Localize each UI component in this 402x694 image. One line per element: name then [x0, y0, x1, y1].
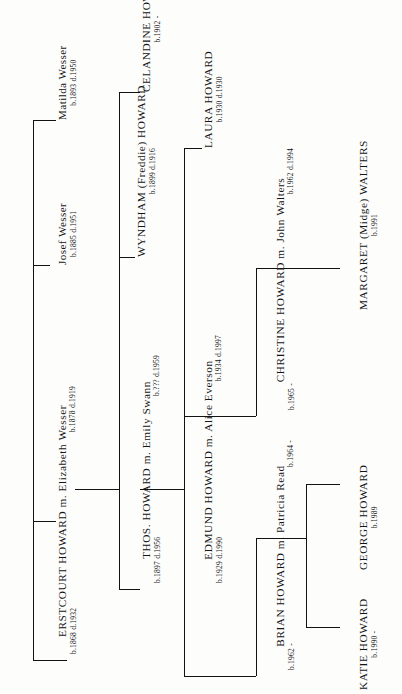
connector-gen1-to-matilda [33, 120, 56, 121]
person-dates: b.1991 [371, 140, 380, 310]
person-josef-wesser[interactable]: Josef Wesser b.1885 d.1951 [56, 203, 79, 265]
person-dates: b.1990 - [371, 598, 380, 690]
person-matilda-wesser[interactable]: Matilda Wesser b.1893 d.1950 [56, 45, 79, 120]
person-thos-howard[interactable]: THOS. HOWARD m. Emily Swann b.1897 d.195… [140, 351, 162, 589]
person-dates: b.1893 d.1950 [70, 45, 79, 120]
connector-gen1-to-josef [33, 265, 50, 266]
person-name: WYNDHAM (Freddie) HOWARD [135, 85, 148, 257]
connector-brian-to-george [306, 484, 340, 485]
person-brian-howard[interactable]: BRIAN HOWARD m. Patricia Read b.1962 - b… [274, 436, 296, 676]
connector-gen1-to-elizabeth [33, 521, 56, 522]
person-dates: b.1989 [371, 465, 380, 570]
person-name: BRIAN HOWARD m. Patricia Read [274, 436, 287, 676]
person-name: Matilda Wesser [56, 45, 69, 120]
person-name: CELANDINE HOWARD [140, 0, 153, 92]
connector-gen1-drop [33, 521, 34, 661]
connector-brian-drop [256, 538, 257, 676]
person-erstcourt-howard[interactable]: ERSTCOURT HOWARD m. Elizabeth Wesser b.1… [56, 382, 78, 660]
connector-christine-drop [256, 268, 257, 416]
person-name: Josef Wesser [56, 203, 69, 265]
person-name: MARGARET (Midge) WALTERS [357, 140, 370, 310]
person-dates: b.1885 d.1951 [70, 203, 79, 265]
connector-thos-spine [119, 92, 120, 590]
connector-brian-children-spine [306, 484, 307, 628]
person-dates: b.1899 d.1916 [149, 85, 158, 257]
person-celandine-howard[interactable]: CELANDINE HOWARD b.1902 - [140, 0, 163, 92]
connector-thos-to-wyndham [119, 257, 135, 258]
connector-edmund-spine [184, 148, 185, 676]
connector-erstcourt-to-thos [75, 489, 119, 490]
spouse-dates: b.1962 d.1994 [287, 144, 296, 416]
person-dates: b.1930 d.1930 [216, 51, 225, 148]
connector-edmund-to-laura [184, 148, 202, 149]
person-katie-howard[interactable]: KATIE HOWARD b.1990 - [357, 598, 380, 690]
person-name: KATIE HOWARD [357, 598, 370, 690]
person-george-howard[interactable]: GEORGE HOWARD b.1989 [357, 465, 380, 570]
person-wyndham-howard[interactable]: WYNDHAM (Freddie) HOWARD b.1899 d.1916 [135, 85, 158, 257]
person-laura-howard[interactable]: LAURA HOWARD b.1930 d.1930 [202, 51, 225, 148]
spouse-dates: b.1964 - [287, 436, 296, 676]
person-dates: b.1902 - [154, 0, 163, 92]
person-edmund-howard[interactable]: EDMUND HOWARD m. Alice Everson b.1929 d.… [202, 331, 224, 589]
person-name: LAURA HOWARD [202, 51, 215, 148]
connector-gen1-spine [33, 120, 34, 522]
connector-brian-to-katie [306, 627, 340, 628]
connector-thos-bottom [119, 589, 140, 590]
connector-gen1-stem [33, 660, 67, 661]
family-tree-chart: Matilda Wesser b.1893 d.1950 Josef Wesse… [0, 0, 402, 694]
connector-edmund-to-brian [184, 676, 256, 677]
person-christine-howard[interactable]: CHRISTINE HOWARD m. John Walters b.1965 … [274, 144, 296, 416]
person-margaret-walters[interactable]: MARGARET (Midge) WALTERS b.1991 [357, 140, 380, 310]
connector-christine-to-margaret [256, 268, 340, 269]
person-name: GEORGE HOWARD [357, 465, 370, 570]
